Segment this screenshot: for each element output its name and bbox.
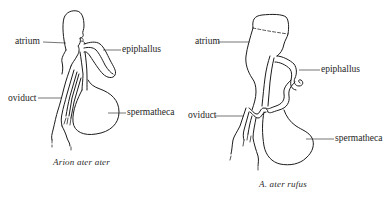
caption-arion-ater-ater: Arion ater ater — [53, 158, 110, 167]
spermatheca-shape-left — [73, 80, 119, 135]
caption-a-ater-rufus: A. ater rufus — [259, 180, 307, 189]
figure-arion-ater-ater-drawing — [38, 11, 126, 150]
label-atrium-left: atrium — [15, 37, 40, 47]
atrium-shape-right — [253, 14, 289, 56]
label-oviduct-right: oviduct — [188, 111, 217, 121]
label-epiphallus-left: epiphallus — [122, 45, 161, 55]
figure-a-ater-rufus-drawing — [215, 14, 334, 170]
label-spermatheca-left: spermatheca — [127, 108, 174, 118]
anatomy-drawings — [0, 0, 389, 203]
label-epiphallus-right: epiphallus — [321, 65, 360, 75]
diagram-page: atrium epiphallus oviduct spermatheca Ar… — [0, 0, 389, 203]
spermatheca-shape-right — [263, 110, 314, 165]
label-spermatheca-right: spermatheca — [335, 134, 382, 144]
label-atrium-right: atrium — [195, 37, 220, 47]
label-oviduct-left: oviduct — [8, 94, 37, 104]
